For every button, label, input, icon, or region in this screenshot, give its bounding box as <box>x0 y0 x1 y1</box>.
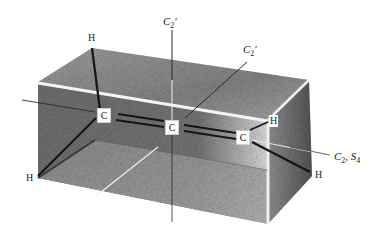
label-c2prime-diagonal: C2′ <box>243 44 257 58</box>
atom-h-top-left: H <box>88 33 95 43</box>
atom-c-center: C <box>165 120 179 135</box>
atom-c-right: C <box>236 130 250 145</box>
atom-h-right-upper: H <box>269 115 278 127</box>
label-prime: ′ <box>254 43 256 55</box>
atom-c-left: C <box>97 108 111 123</box>
label-prime: ′ <box>174 15 176 27</box>
label-subscript-s: 4 <box>356 156 360 165</box>
atom-h-right-lower: H <box>315 170 322 180</box>
label-principal-axis: C2, S4 <box>334 151 360 165</box>
label-c2prime-vertical: C2′ <box>163 16 177 30</box>
allene-box-diagram <box>0 0 388 238</box>
atom-h-bottom-left: H <box>26 173 33 183</box>
